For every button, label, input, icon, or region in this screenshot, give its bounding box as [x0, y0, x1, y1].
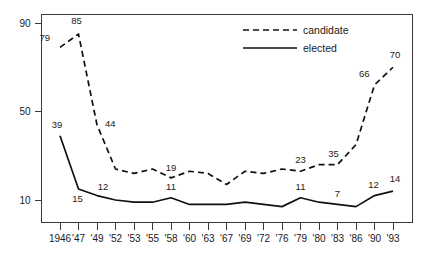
x-tick-label: '76: [275, 233, 288, 244]
x-axis-ticks: 1946'47'49'52'53'55'58'60'63'67'69'72'76…: [49, 223, 400, 244]
data-label-elected: 15: [72, 193, 83, 204]
x-tick-label: '53: [127, 233, 140, 244]
data-label-elected: 7: [335, 188, 340, 199]
x-tick-label: '93: [386, 233, 399, 244]
chart-legend: candidate elected: [243, 24, 349, 54]
legend-label-elected: elected: [303, 42, 337, 54]
series-line-candidate: [60, 34, 393, 184]
data-label-candidate: 35: [328, 148, 339, 159]
x-tick-label: '83: [331, 233, 344, 244]
data-label-elected: 11: [166, 181, 176, 192]
x-tick-label: '79: [294, 233, 307, 244]
y-tick-label: 90: [19, 18, 31, 29]
x-tick-label: '86: [349, 233, 362, 244]
data-label-elected: 14: [390, 173, 401, 184]
y-axis-ticks: 105090: [19, 18, 41, 206]
data-label-candidate: 70: [390, 49, 401, 60]
x-tick-label: '80: [312, 233, 325, 244]
x-tick-label: '60: [183, 233, 196, 244]
x-tick-label: '69: [238, 233, 251, 244]
data-label-candidate: 44: [105, 118, 116, 129]
data-label-elected: 12: [98, 181, 109, 192]
data-label-candidate: 79: [39, 32, 50, 43]
x-tick-label: '63: [201, 233, 214, 244]
line-chart: 105090 1946'47'49'52'53'55'58'60'63'67'6…: [0, 0, 424, 257]
y-tick-label: 10: [19, 195, 31, 206]
x-tick-label: '49: [90, 233, 103, 244]
x-tick-label: '67: [220, 233, 233, 244]
y-tick-label: 50: [19, 106, 31, 117]
x-tick-label: '72: [257, 233, 270, 244]
chart-canvas: 105090 1946'47'49'52'53'55'58'60'63'67'6…: [0, 0, 424, 257]
data-label-candidate: 19: [166, 162, 177, 173]
data-label-candidate: 66: [359, 68, 370, 79]
x-tick-label: '58: [164, 233, 177, 244]
x-tick-label: 1946: [49, 233, 72, 244]
data-label-candidate: 85: [71, 15, 82, 26]
data-label-elected: 39: [52, 119, 63, 130]
x-tick-label: '52: [109, 233, 122, 244]
series-line-elected: [60, 136, 393, 207]
x-tick-label: '55: [146, 233, 159, 244]
data-label-elected: 11: [296, 181, 306, 192]
x-tick-label: '90: [368, 233, 381, 244]
x-tick-label: '47: [72, 233, 85, 244]
legend-label-candidate: candidate: [303, 24, 349, 36]
data-label-candidate: 23: [295, 154, 306, 165]
data-label-elected: 12: [368, 179, 379, 190]
data-point-labels: 7985441923356670391512111171214: [39, 15, 400, 204]
